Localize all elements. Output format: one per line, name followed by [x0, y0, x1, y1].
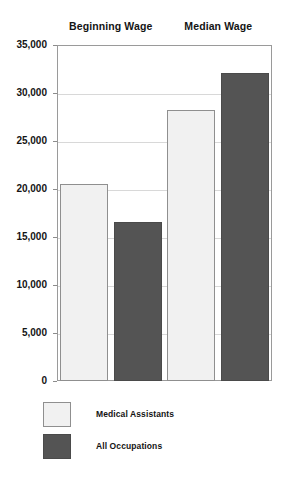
y-axis-tick-label: 10,000: [1, 279, 47, 291]
group-header-beginning-wage: Beginning Wage: [57, 19, 165, 37]
y-axis-tick-label: 15,000: [1, 231, 47, 243]
y-axis: 35,00030,00025,00020,00015,00010,0005,00…: [0, 38, 57, 388]
bar: [114, 222, 162, 381]
bar: [60, 184, 108, 381]
y-axis-tick-label: 30,000: [1, 87, 47, 99]
legend-item-all-occupations: All Occupations: [43, 432, 273, 460]
legend-swatch-light: [43, 402, 71, 427]
y-axis-tick-label: 0: [1, 375, 47, 387]
y-axis-tick-label: 5,000: [1, 327, 47, 339]
legend-label-medical-assistants: Medical Assistants: [96, 409, 174, 419]
group-header-median-wage: Median Wage: [165, 19, 273, 37]
wage-comparison-bar-chart: Beginning Wage Median Wage 35,00030,0002…: [0, 0, 287, 481]
bar: [167, 110, 215, 381]
legend-label-all-occupations: All Occupations: [96, 441, 162, 451]
group-header-row: Beginning Wage Median Wage: [57, 19, 272, 37]
chart-legend: Medical Assistants All Occupations: [43, 400, 273, 464]
y-axis-tick-label: 25,000: [1, 135, 47, 147]
bars-layer: [57, 45, 272, 381]
legend-swatch-dark: [43, 434, 71, 459]
y-axis-tick-label: 20,000: [1, 183, 47, 195]
y-axis-tick-mark: [53, 381, 57, 382]
bar: [221, 73, 269, 381]
legend-item-medical-assistants: Medical Assistants: [43, 400, 273, 428]
y-axis-tick-label: 35,000: [1, 39, 47, 51]
